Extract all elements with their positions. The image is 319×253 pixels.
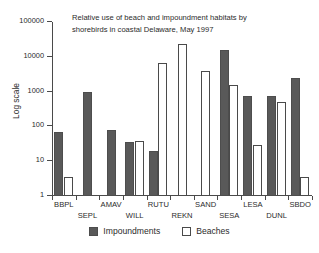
x-axis-label-bbpl: BBPL: [54, 200, 73, 209]
legend-swatch-beaches: [182, 227, 191, 236]
legend-swatch-impoundments: [89, 227, 98, 236]
bar-beaches: [64, 177, 73, 196]
bar-impoundments: [83, 92, 92, 196]
y-axis-tick-label: 100000: [19, 16, 44, 25]
y-axis-tick-label: 1: [40, 190, 44, 199]
x-axis-label-dunl: DUNL: [266, 211, 287, 220]
x-axis-tick: [265, 196, 266, 200]
bar-impoundments: [107, 130, 116, 196]
plot-area: 110100100010000100000: [52, 22, 312, 196]
bar-impoundments: [291, 78, 300, 196]
bar-impoundments: [243, 96, 252, 196]
bar-impoundments: [267, 96, 276, 196]
bar-impoundments: [220, 50, 229, 196]
x-axis-tick: [241, 196, 242, 200]
y-axis-tick: 100000: [47, 21, 52, 22]
legend-item-beaches: Beaches: [182, 226, 229, 236]
legend-label: Beaches: [196, 226, 229, 236]
y-axis-tick-label: 10: [36, 155, 44, 164]
bar-beaches: [229, 85, 238, 196]
x-axis-label-sand: SAND: [195, 200, 216, 209]
y-axis-tick-label: 100: [32, 120, 44, 129]
y-axis-line: [52, 22, 53, 196]
x-axis-label-sbdo: SBDO: [289, 200, 311, 209]
x-axis-tick: [76, 196, 77, 200]
bar-beaches: [178, 44, 187, 196]
x-axis-tick: [170, 196, 171, 200]
y-axis-label: Log scale: [11, 71, 21, 131]
x-axis-label-sesa: SESA: [219, 211, 239, 220]
x-axis-tick: [52, 196, 53, 200]
x-axis-label-sepl: SEPL: [78, 211, 97, 220]
bar-beaches: [277, 102, 286, 196]
bar-beaches: [158, 63, 167, 196]
y-axis-tick-label: 1000: [28, 86, 44, 95]
legend-item-impoundments: Impoundments: [89, 226, 160, 236]
bar-beaches: [253, 145, 262, 196]
bar-impoundments: [54, 132, 63, 196]
x-axis-label-amav: AMAV: [101, 200, 122, 209]
chart-legend: ImpoundmentsBeaches: [0, 226, 319, 236]
bar-impoundments: [125, 142, 134, 196]
bar-impoundments: [149, 151, 158, 196]
y-axis-tick-label: 10000: [23, 51, 44, 60]
x-axis-label-will: WILL: [126, 211, 144, 220]
x-axis-label-rekn: REKN: [171, 211, 192, 220]
bar-chart: Relative use of beach and impoundment ha…: [0, 0, 319, 253]
bar-beaches: [135, 141, 144, 196]
y-axis-tick: 10000: [47, 56, 52, 57]
x-axis-label-lesa: LESA: [243, 200, 262, 209]
legend-label: Impoundments: [103, 226, 160, 236]
y-axis-tick: 100: [47, 125, 52, 126]
x-axis-tick: [312, 196, 313, 200]
bar-beaches: [300, 177, 309, 196]
x-axis-tick: [217, 196, 218, 200]
x-axis-tick: [123, 196, 124, 200]
y-axis-tick: 10: [47, 160, 52, 161]
y-axis-tick: 1000: [47, 91, 52, 92]
x-axis-label-rutu: RUTU: [148, 200, 169, 209]
bar-beaches: [201, 71, 210, 196]
